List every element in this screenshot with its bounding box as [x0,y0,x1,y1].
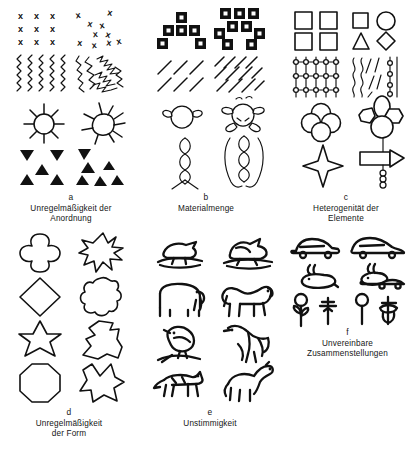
panel-e-row2-left [150,278,208,320]
panel-f-row2-right [352,262,408,292]
svg-text:x: x [18,24,23,34]
panel-b-title-line1: Materialmenge [146,204,266,214]
panel-b-row4-left [168,136,202,190]
svg-text:x: x [92,29,98,39]
panel-a-row1-left: xxx xxx xxx [16,8,72,50]
panel-f-row3-left [290,292,342,328]
panel-e-row2-right [218,278,276,320]
svg-text:x: x [50,11,55,21]
panel-a-row4-right [76,148,130,186]
panel-b-row3-right [216,96,270,136]
panel-e-row4-left [150,364,208,404]
panel-d [0,232,135,404]
panel-d-row1-right [77,232,127,274]
svg-text:x: x [50,37,55,47]
panel-d-row2-right [77,276,127,318]
svg-text:x: x [75,10,81,21]
panel-f-row3-right [352,292,408,328]
panel-e-row3-left [152,322,208,364]
panel-b-row1-left [156,12,208,52]
panel-b [136,8,276,186]
panel-c-caption: c Heterogenität der Elemente [285,193,407,224]
svg-text:x: x [50,24,55,34]
svg-text:x: x [34,11,39,21]
panel-c-title-line2: Elemente [285,214,407,224]
panel-e-caption: e Unstimmigkeit [148,408,272,429]
panel-f-row1-left [288,234,342,262]
panel-f-caption: f Unvereinbare Zusammenstellungen [282,328,413,359]
panel-f-row1-right [350,234,408,262]
svg-text:x: x [99,20,106,31]
panel-a-row3-right [78,101,128,145]
panel-b-row2-right [214,54,268,96]
panel-e-title-line1: Unstimmigkeit [148,419,272,429]
panel-d-row1-left [17,232,63,274]
panel-b-caption: b Materialmenge [146,193,266,214]
panel-c-row1-right [350,10,402,52]
svg-text:x: x [91,40,97,50]
panel-d-caption: d Unregelmäßigkeit der Form [6,408,132,439]
panel-d-letter: d [6,408,132,418]
panel-e [138,236,280,404]
svg-text:x: x [115,36,122,47]
panel-e-row1-left [152,236,208,270]
panel-f-title-line1: Unvereinbare [282,339,413,349]
panel-a-row4-left [18,148,70,186]
panel-e-row4-right [218,360,276,404]
panel-d-row4-left [17,362,63,404]
panel-c-row2-left [292,56,342,98]
panel-f-row2-left [290,262,342,292]
panel-e-row3-right [220,322,276,364]
panel-a-letter: a [8,193,134,203]
panel-c-title-line1: Heterogenität der [285,204,407,214]
panel-b-row4-right [222,132,266,190]
panel-d-row3-left [17,320,63,362]
figure-plate: xxx xxx xxx x x x x x x x x x x [0,0,413,452]
panel-a-row3-left [20,101,68,145]
panel-b-row3-left [158,102,208,136]
panel-c [278,8,413,186]
panel-c-row4-right [358,138,408,188]
panel-a-row1-right: x x x x x x x x x x [75,8,131,50]
panel-e-row1-right [220,236,276,270]
panel-f-letter: f [282,328,413,338]
panel-d-row3-right [77,320,127,362]
svg-text:x: x [77,38,83,48]
panel-c-letter: c [285,193,407,203]
panel-c-row4-left [302,144,344,188]
panel-c-row3-right [358,96,406,142]
panel-b-row1-right [214,8,268,52]
panel-a-title-line2: Anordnung [8,214,134,224]
panel-d-row4-right [77,362,127,404]
panel-b-row2-left [156,58,208,94]
panel-c-row1-left [292,10,342,52]
svg-text:x: x [107,7,114,18]
svg-text:x: x [87,18,94,29]
panel-f [282,234,413,324]
panel-a-row2-right [75,54,131,94]
svg-text:x: x [34,24,39,34]
panel-c-row3-left [300,102,344,142]
panel-d-title-line2: der Form [6,429,132,439]
svg-text:x: x [106,37,113,48]
panel-a-row2-left [16,54,72,94]
panel-a-title-line1: Unregelmäßigkeit der [8,204,134,214]
svg-text:x: x [34,37,39,47]
panel-d-title-line1: Unregelmäßigkeit [6,419,132,429]
panel-d-row2-left [17,276,63,318]
svg-text:x: x [18,11,23,21]
panel-e-letter: e [148,408,272,418]
svg-text:x: x [18,37,23,47]
panel-f-title-line2: Zusammenstellungen [282,349,413,359]
panel-c-row2-right [350,56,402,98]
panel-a-caption: a Unregelmäßigkeit der Anordnung [8,193,134,224]
panel-a: xxx xxx xxx x x x x x x x x x x [0,8,133,186]
panel-b-letter: b [146,193,266,203]
